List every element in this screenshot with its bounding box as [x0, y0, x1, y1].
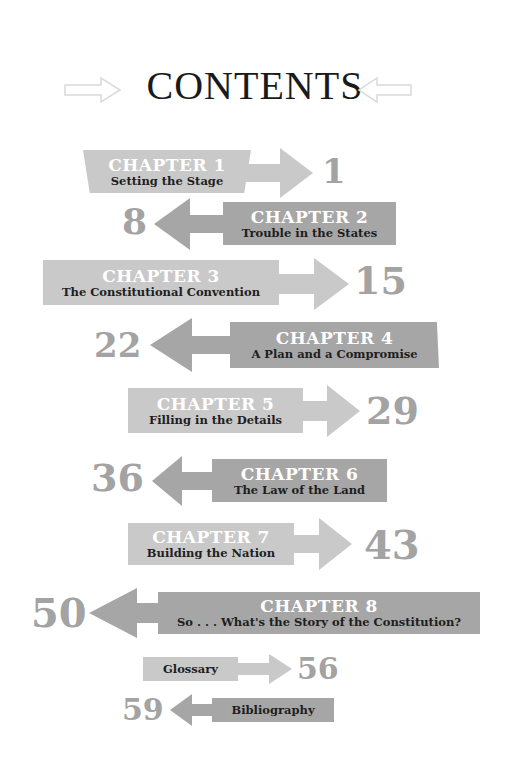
chapter-title: The Constitutional Convention [62, 285, 260, 299]
chapter-title: Setting the Stage [111, 174, 223, 188]
back-matter-banner: Glossary [143, 657, 238, 681]
page-number: 59 [122, 695, 164, 725]
chapter-title: Filling in the Details [149, 413, 282, 427]
left-arrow-icon [154, 198, 230, 250]
chapter-label: CHAPTER 4 [276, 329, 394, 347]
page-number: 56 [297, 654, 339, 684]
page-number: 8 [122, 203, 147, 239]
back-matter-banner: Bibliography [212, 698, 334, 722]
page-number: 50 [31, 593, 87, 633]
back-matter-title: Glossary [163, 662, 218, 676]
page-title: CONTENTS [0, 62, 510, 110]
chapter-title: Trouble in the States [242, 226, 377, 240]
left-arrow-icon [89, 588, 163, 638]
right-arrow-icon [240, 148, 314, 198]
chapter-banner: CHAPTER 6 The Law of the Land [212, 459, 387, 502]
chapter-banner: CHAPTER 5 Filling in the Details [128, 388, 303, 433]
left-arrow-outline-icon [358, 78, 412, 102]
page-number: 36 [91, 459, 144, 497]
chapter-label: CHAPTER 7 [152, 528, 270, 546]
back-matter-title: Bibliography [231, 703, 314, 717]
chapter-label: CHAPTER 6 [241, 465, 359, 483]
chapter-banner: CHAPTER 3 The Constitutional Convention [43, 260, 279, 305]
right-arrow-icon [233, 654, 293, 684]
right-arrow-icon [287, 518, 353, 570]
left-arrow-icon [170, 694, 216, 726]
chapter-banner: CHAPTER 1 Setting the Stage [83, 150, 251, 193]
chapter-title: The Law of the Land [234, 483, 365, 497]
chapter-banner: CHAPTER 7 Building the Nation [128, 523, 294, 565]
right-arrow-icon [270, 258, 350, 310]
chapter-label: CHAPTER 5 [157, 395, 275, 413]
page-number: 15 [354, 262, 407, 300]
page-number: 1 [322, 154, 346, 188]
chapter-label: CHAPTER 2 [251, 208, 369, 226]
chapter-label: CHAPTER 8 [260, 597, 378, 615]
chapter-title: Building the Nation [147, 546, 275, 560]
chapter-label: CHAPTER 3 [102, 267, 220, 285]
chapter-banner: CHAPTER 2 Trouble in the States [223, 202, 396, 245]
chapter-banner: CHAPTER 4 A Plan and a Compromise [230, 322, 439, 368]
chapter-title: So . . . What's the Story of the Constit… [177, 615, 461, 629]
page-number: 22 [94, 328, 141, 362]
left-arrow-icon [150, 318, 236, 372]
page-number: 29 [366, 392, 419, 430]
page-number: 43 [364, 525, 420, 565]
right-arrow-icon [295, 385, 361, 437]
chapter-title: A Plan and a Compromise [251, 347, 417, 361]
left-arrow-icon [152, 456, 218, 506]
chapter-banner: CHAPTER 8 So . . . What's the Story of t… [158, 592, 480, 634]
chapter-label: CHAPTER 1 [108, 156, 226, 174]
